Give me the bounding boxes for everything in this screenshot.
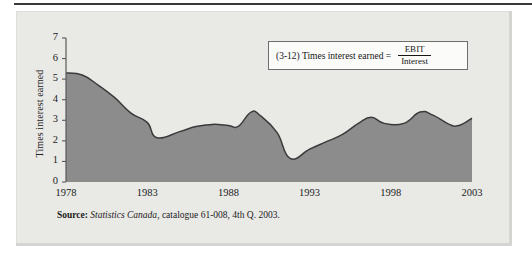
x-axis-tick-label: 1988 (206, 187, 250, 198)
y-axis-tick-label: 6 (40, 52, 58, 63)
y-axis-tick-label: 0 (40, 175, 58, 186)
source-detail: , catalogue 61-008, 4th Q. 2003. (157, 210, 280, 220)
formula-callout-box: (3-12) Times interest earned = EBIT Inte… (268, 41, 468, 70)
formula-numerator: EBIT (398, 45, 431, 54)
source-label: Source: (57, 210, 88, 220)
figure-container: Times interest earned 01234567 197819831… (0, 0, 532, 263)
y-axis-tick-label: 1 (40, 154, 58, 165)
area-chart (0, 0, 532, 263)
x-axis-tick-label: 2003 (450, 187, 494, 198)
source-line: Source: Statistics Canada, catalogue 61-… (57, 210, 280, 220)
formula-left-side: (3-12) Times interest earned = (276, 51, 391, 61)
y-axis-tick-label: 7 (40, 31, 58, 42)
y-axis-tick-label: 5 (40, 72, 58, 83)
x-axis-tick-label: 1978 (44, 187, 88, 198)
x-axis-tick-label: 1983 (125, 187, 169, 198)
x-axis-tick-label: 1998 (369, 187, 413, 198)
y-axis-tick-label: 4 (40, 93, 58, 104)
x-axis-tick-label: 1993 (288, 187, 332, 198)
series-area-fill (66, 73, 472, 182)
source-publication: Statistics Canada (90, 210, 157, 220)
y-axis-tick-label: 2 (40, 134, 58, 145)
formula-denominator: Interest (398, 57, 431, 66)
y-axis-tick-label: 3 (40, 113, 58, 124)
formula-fraction: EBIT Interest (398, 45, 431, 65)
